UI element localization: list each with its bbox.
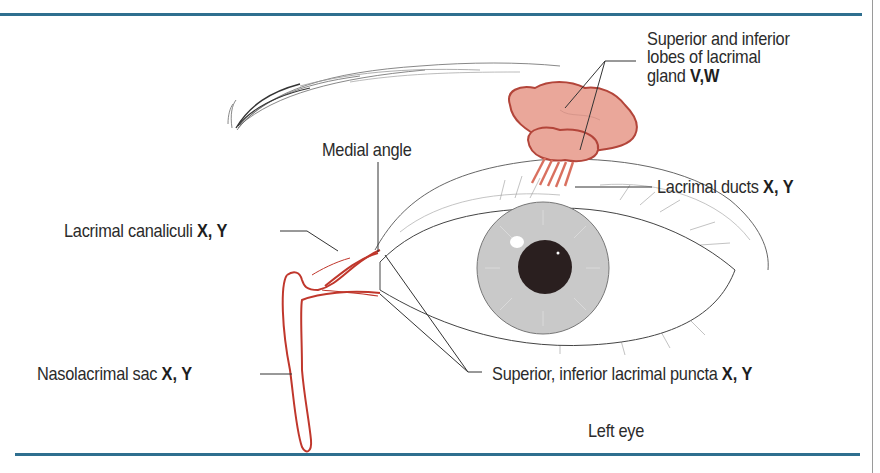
pupil xyxy=(518,240,572,294)
label-lacrimal-gland-text: gland xyxy=(647,65,686,86)
label-lacrimal-puncta: Superior, inferior lacrimal puncta X, Y xyxy=(492,364,752,384)
label-nasolacrimal-sac-tag: X, Y xyxy=(162,363,193,384)
lacrimal-gland xyxy=(509,82,637,161)
label-medial-angle: Medial angle xyxy=(322,140,412,160)
label-lacrimal-puncta-text: Superior, inferior lacrimal puncta xyxy=(492,363,718,384)
label-lacrimal-canaliculi-tag: X, Y xyxy=(197,220,228,241)
label-lacrimal-gland-line2: lobes of lacrimal xyxy=(647,47,761,67)
label-lacrimal-ducts: Lacrimal ducts X, Y xyxy=(657,177,794,197)
label-lacrimal-gland-tag: V,W xyxy=(690,65,719,86)
figure-caption: Left eye xyxy=(588,421,644,441)
label-lacrimal-ducts-tag: X, Y xyxy=(763,176,794,197)
label-lacrimal-gland-line3: gland V,W xyxy=(647,66,719,86)
highlight xyxy=(510,236,524,248)
label-lacrimal-puncta-tag: X, Y xyxy=(722,363,753,384)
lacrimal-ducts xyxy=(532,158,573,187)
label-lacrimal-canaliculi: Lacrimal canaliculi X, Y xyxy=(64,221,227,241)
label-lacrimal-canaliculi-text: Lacrimal canaliculi xyxy=(64,220,193,241)
nasolacrimal-system xyxy=(283,250,380,451)
bottom-rule xyxy=(15,453,860,456)
label-lacrimal-ducts-text: Lacrimal ducts xyxy=(657,176,759,197)
label-nasolacrimal-sac: Nasolacrimal sac X, Y xyxy=(37,364,192,384)
label-nasolacrimal-sac-text: Nasolacrimal sac xyxy=(37,363,157,384)
